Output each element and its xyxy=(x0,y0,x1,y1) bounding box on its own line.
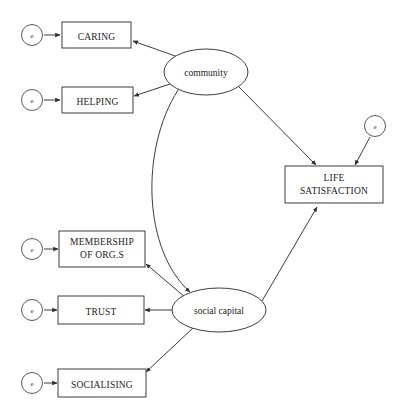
social-capital-label: social capital xyxy=(194,306,244,316)
outcome-life-satisfaction[interactable]: LIFE SATISFACTION xyxy=(285,166,383,203)
indicator-caring[interactable]: CARING xyxy=(62,22,131,48)
error-term-trust[interactable]: e xyxy=(22,300,43,321)
latent-community[interactable]: community xyxy=(164,49,248,95)
path-community-to-life-satisfaction xyxy=(238,86,316,165)
error-label-socialising: e xyxy=(30,380,33,388)
path-social-capital-to-socialising xyxy=(146,328,193,372)
error-term-socialising[interactable]: e xyxy=(22,373,43,394)
caring-label: CARING xyxy=(78,32,116,42)
error-term-membership[interactable]: e xyxy=(22,239,43,260)
error-label-trust: e xyxy=(30,307,33,315)
error-label-caring: e xyxy=(30,32,33,40)
life-satisfaction-box[interactable] xyxy=(285,166,383,203)
path-community-social-capital-covariance xyxy=(152,90,190,292)
helping-label: HELPING xyxy=(76,97,118,107)
path-community-to-caring xyxy=(133,41,178,57)
sem-path-diagram: CARING HELPING MEMBERSHIP OF ORG.S TRUST… xyxy=(0,0,401,416)
error-label-life-satisfaction: e xyxy=(373,123,376,131)
socialising-label: SOCIALISING xyxy=(71,380,133,390)
path-social-capital-to-life-satisfaction xyxy=(262,207,317,301)
error-term-caring[interactable]: e xyxy=(22,25,43,46)
indicator-membership-of-orgs[interactable]: MEMBERSHIP OF ORG.S xyxy=(59,231,145,267)
error-label-membership: e xyxy=(30,246,33,254)
indicator-helping[interactable]: HELPING xyxy=(62,87,133,113)
error-term-helping[interactable]: e xyxy=(22,90,43,111)
life-satisfaction-label-line2: SATISFACTION xyxy=(300,186,368,196)
trust-label: TRUST xyxy=(85,307,116,317)
error-label-helping: e xyxy=(30,97,33,105)
path-error-to-life-satisfaction xyxy=(355,137,370,165)
latent-social-capital[interactable]: social capital xyxy=(172,288,266,332)
indicator-trust[interactable]: TRUST xyxy=(58,296,144,324)
membership-label-line1: MEMBERSHIP xyxy=(70,237,134,247)
error-term-life-satisfaction[interactable]: e xyxy=(365,116,386,137)
community-label: community xyxy=(184,68,228,78)
life-satisfaction-label-line1: LIFE xyxy=(324,173,345,183)
indicator-socialising[interactable]: SOCIALISING xyxy=(58,369,146,397)
membership-label-line2: OF ORG.S xyxy=(80,250,124,260)
